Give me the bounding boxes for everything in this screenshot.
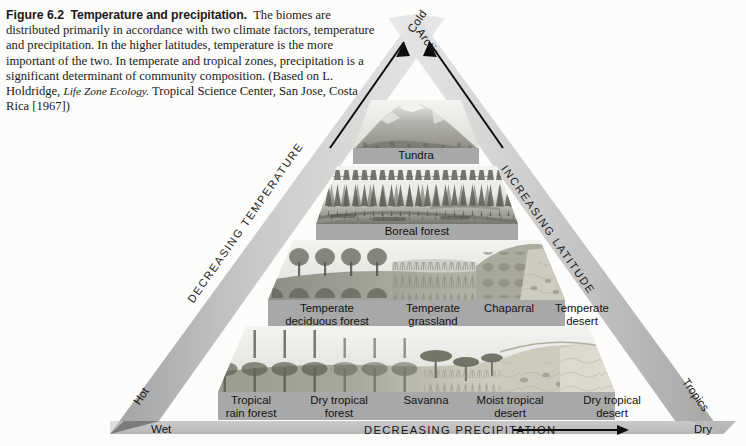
- figure-container: Figure 6.2 Temperature and precipitation…: [0, 0, 746, 446]
- biome-label-line2: forest: [287, 407, 391, 420]
- biome-label-line1: Moist tropical: [449, 394, 571, 407]
- biome-label-dry-tropical-desert: Dry tropical desert: [556, 394, 668, 420]
- biome-label-line1: Temperate: [387, 302, 479, 315]
- biome-label-dry-tropical-forest: Dry tropical forest: [287, 394, 391, 420]
- biome-label-temperate-grassland: Temperate grassland: [387, 302, 479, 328]
- biome-label-boreal-forest: Boreal forest: [330, 225, 504, 238]
- biome-label-moist-tropical-desert: Moist tropical desert: [449, 394, 571, 420]
- biome-label-line2: desert: [536, 315, 628, 328]
- decreasing-precipitation-label: DECREASING PRECIPITATION: [364, 424, 556, 436]
- biome-label-line2: desert: [556, 407, 668, 420]
- biome-label-line2: desert: [449, 407, 571, 420]
- biome-label-line1: Dry tropical: [287, 394, 391, 407]
- biome-label-line1: Temperate: [268, 302, 386, 315]
- wet-label: Wet: [151, 423, 171, 435]
- biome-label-line2: deciduous forest: [268, 315, 386, 328]
- biome-label-tundra: Tundra: [360, 149, 472, 162]
- biome-label-line2: grassland: [387, 315, 479, 328]
- biome-label-temperate-deciduous-forest: Temperate deciduous forest: [268, 302, 386, 328]
- dry-label: Dry: [694, 423, 712, 435]
- biome-label-line1: Tundra: [360, 149, 472, 162]
- biome-label-line1: Boreal forest: [330, 225, 504, 238]
- biome-triangle-diagram: [0, 0, 746, 446]
- biome-label-line1: Temperate: [536, 302, 628, 315]
- biome-label-line1: Dry tropical: [556, 394, 668, 407]
- biome-label-temperate-desert: Temperate desert: [536, 302, 628, 328]
